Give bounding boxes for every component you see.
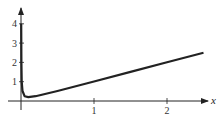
y-tick-label: 2 (12, 57, 17, 68)
y-tick-label: 3 (12, 38, 17, 49)
x-axis-label: x (210, 94, 216, 106)
function-curve (21, 24, 203, 97)
y-tick-label: 4 (12, 18, 17, 29)
y-tick-label: 1 (12, 76, 17, 87)
function-plot: x 12 1234 (0, 0, 220, 118)
x-tick-label: 1 (92, 105, 97, 116)
x-tick-label: 2 (165, 105, 170, 116)
